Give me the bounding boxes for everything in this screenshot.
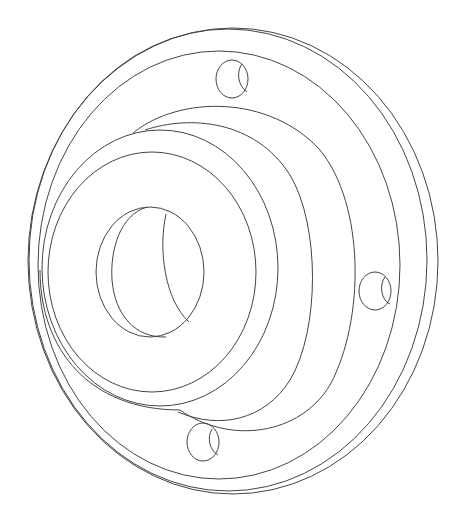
hub-front-face <box>40 130 278 410</box>
bolt-hole-top <box>216 60 248 98</box>
bolt-hole-bottom <box>187 423 219 461</box>
bolt-hole-right <box>359 272 391 310</box>
flange-face-ring <box>38 51 400 479</box>
hub-back-shoulder <box>133 106 355 430</box>
central-bore <box>96 207 204 337</box>
flange-drawing <box>0 0 461 518</box>
